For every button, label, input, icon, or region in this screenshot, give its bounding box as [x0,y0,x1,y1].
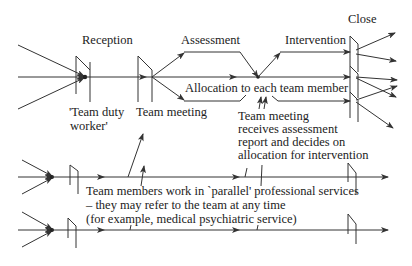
duty-worker-label-line2: worker' [70,120,108,133]
parallel-services-line3: (for example, medical psychiatric servic… [86,213,297,226]
allocation-label: Allocation to each team member [185,82,348,95]
close-gate-icon [350,36,358,122]
stage-label-assessment: Assessment [181,34,240,47]
parallel-services-line2: – they may refer to the team at any time [86,199,286,212]
incoming-arrows [18,45,87,109]
stage-label-close: Close [348,13,376,26]
parallel-services-line1: Team members work in `parallel' professi… [86,185,359,198]
process-diagram: Reception Assessment Intervention Close … [0,0,412,266]
team-meeting-gate-icon [138,56,152,102]
meeting-receives-line4: allocation for intervention [238,149,369,162]
duty-worker-label-line1: 'Team duty [69,106,124,119]
team-meeting-label: Team meeting [136,106,207,119]
stage-label-reception: Reception [82,34,133,47]
stage-label-intervention: Intervention [285,34,346,47]
outgoing-arrows [356,33,397,128]
